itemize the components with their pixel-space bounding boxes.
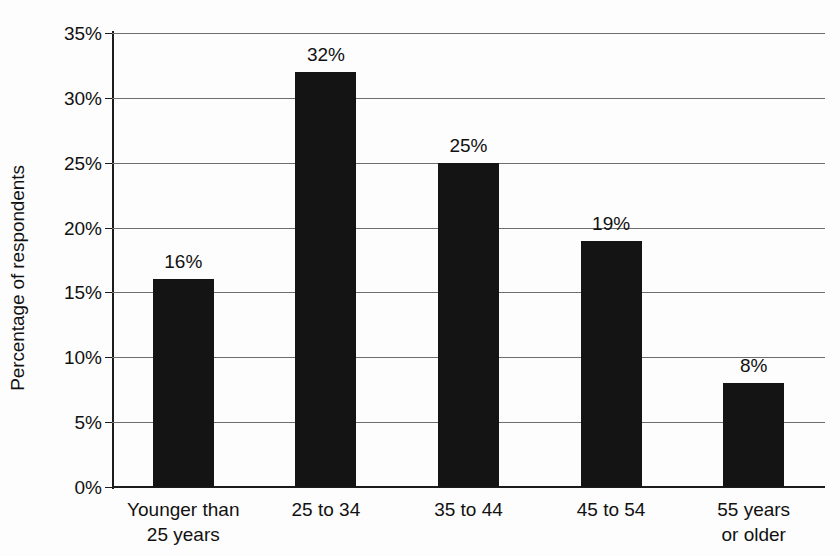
x-axis-tick-label-line: or older [669, 522, 839, 547]
x-axis-tick-label-line: 55 years [669, 497, 839, 522]
y-axis-tick [105, 163, 112, 164]
y-axis-tick-label: 20% [30, 219, 102, 238]
y-axis-tick [105, 228, 112, 229]
y-axis-tick-label: 25% [30, 154, 102, 173]
y-axis-title-label: Percentage of respondents [7, 165, 29, 391]
bar[interactable] [438, 163, 499, 487]
bar[interactable] [153, 279, 214, 487]
x-axis-tick-label-line: 25 years [98, 522, 268, 547]
y-axis-tick-label: 35% [30, 24, 102, 43]
bar[interactable] [295, 72, 356, 487]
y-axis-tick-label: 15% [30, 283, 102, 302]
bar-value-label: 8% [704, 356, 804, 375]
gridline [112, 33, 825, 34]
y-axis-tick [105, 422, 112, 423]
y-axis-title: Percentage of respondents [0, 0, 36, 556]
bar-value-label: 25% [419, 136, 519, 155]
bar-value-label: 16% [133, 252, 233, 271]
y-axis-tick-label: 5% [30, 413, 102, 432]
bar[interactable] [723, 383, 784, 487]
y-axis-tick-label: 30% [30, 89, 102, 108]
x-axis-tick-label: 55 yearsor older [669, 497, 839, 547]
bar[interactable] [581, 241, 642, 487]
y-axis-tick [105, 98, 112, 99]
plot-area: 16%32%25%19%8% [112, 33, 825, 487]
y-axis-tick-label: 0% [30, 478, 102, 497]
gridline [112, 98, 825, 99]
y-axis-tick [105, 357, 112, 358]
bar-value-label: 32% [276, 45, 376, 64]
y-axis-tick [105, 487, 112, 488]
y-axis-tick [105, 33, 112, 34]
bar-chart: Percentage of respondents 0%5%10%15%20%2… [0, 0, 840, 556]
bar-value-label: 19% [561, 214, 661, 233]
y-axis-tick [105, 292, 112, 293]
y-axis-tick-label: 10% [30, 348, 102, 367]
